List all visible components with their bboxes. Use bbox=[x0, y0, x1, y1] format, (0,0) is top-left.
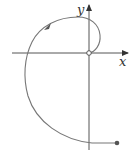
x-axis-label: x bbox=[119, 54, 127, 69]
spiral-curve bbox=[25, 17, 117, 143]
start-point-open-circle bbox=[87, 51, 92, 56]
end-point-dot bbox=[115, 141, 120, 146]
y-axis-label: y bbox=[76, 2, 85, 17]
spiral-diagram: x y bbox=[0, 0, 134, 155]
